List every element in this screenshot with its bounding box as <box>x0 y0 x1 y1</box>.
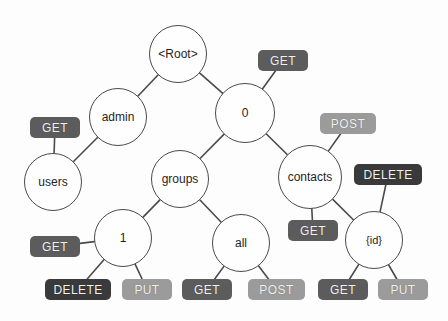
method-badge-label: POST <box>331 118 365 130</box>
method-badge-label: GET <box>300 225 326 237</box>
method-badge-put-one[interactable]: PUT <box>122 279 172 300</box>
edge-admin-users <box>74 138 98 162</box>
method-badge-delete-one[interactable]: DELETE <box>45 279 111 300</box>
edge-groups-one <box>143 200 160 217</box>
edge-groups-all <box>200 200 221 222</box>
node-root[interactable]: <Root> <box>149 25 207 83</box>
edge-users-get <box>54 138 55 153</box>
method-badge-get-one[interactable]: GET <box>30 236 80 257</box>
method-badge-label: GET <box>42 241 68 253</box>
node-all[interactable]: all <box>212 214 270 272</box>
node-label: {id} <box>366 235 382 246</box>
edge-one-put <box>135 264 142 279</box>
node-idparam[interactable]: {id} <box>345 211 403 269</box>
edge-contacts-id <box>333 199 354 219</box>
node-label: users <box>38 176 67 188</box>
node-label: <Root> <box>158 48 197 60</box>
node-zero[interactable]: 0 <box>215 83 275 143</box>
method-badge-get-users[interactable]: GET <box>30 117 80 138</box>
edge-all-post <box>259 266 269 279</box>
edge-contacts-get <box>312 209 313 220</box>
method-badge-get-id[interactable]: GET <box>318 279 368 300</box>
edge-contacts-post <box>329 134 341 151</box>
edge-id-delete <box>380 185 386 212</box>
api-resource-tree-diagram: <Root>admin0usersgroupscontacts1all{id} … <box>0 0 448 321</box>
node-label: contacts <box>288 171 333 183</box>
method-badge-delete-id[interactable]: DELETE <box>354 164 422 185</box>
node-label: admin <box>102 111 135 123</box>
edge-root-zero <box>200 73 223 93</box>
edge-id-get <box>350 265 359 279</box>
method-badge-label: DELETE <box>53 284 102 296</box>
node-contacts[interactable]: contacts <box>278 145 342 209</box>
method-badge-get-all[interactable]: GET <box>182 279 232 300</box>
node-admin[interactable]: admin <box>89 88 147 146</box>
node-one[interactable]: 1 <box>94 209 152 267</box>
node-label: all <box>235 237 247 249</box>
method-badge-label: PUT <box>390 284 415 296</box>
node-users[interactable]: users <box>24 153 82 211</box>
method-badge-label: GET <box>194 284 220 296</box>
method-badge-get-zero[interactable]: GET <box>258 50 308 71</box>
method-badge-label: GET <box>42 122 68 134</box>
edge-zero-groups <box>200 134 224 158</box>
edge-zero-contacts <box>266 134 287 155</box>
node-label: groups <box>162 173 199 185</box>
node-label: 1 <box>120 232 127 244</box>
node-label: 0 <box>242 107 249 119</box>
method-badge-label: DELETE <box>363 169 412 181</box>
method-badge-label: GET <box>270 55 296 67</box>
method-badge-label: PUT <box>134 284 159 296</box>
edge-root-admin <box>138 75 158 96</box>
edge-one-delete <box>87 260 104 279</box>
edge-zero-get <box>263 71 276 89</box>
edge-id-put <box>389 265 397 279</box>
edge-one-get <box>80 242 94 244</box>
method-badge-put-id[interactable]: PUT <box>378 279 428 300</box>
method-badge-post-all[interactable]: POST <box>248 279 305 300</box>
edge-all-get <box>215 266 224 279</box>
method-badge-get-contacts[interactable]: GET <box>288 220 338 241</box>
method-badge-post-contacts[interactable]: POST <box>320 113 376 134</box>
node-groups[interactable]: groups <box>151 150 209 208</box>
method-badge-label: POST <box>259 284 293 296</box>
method-badge-label: GET <box>330 284 356 296</box>
